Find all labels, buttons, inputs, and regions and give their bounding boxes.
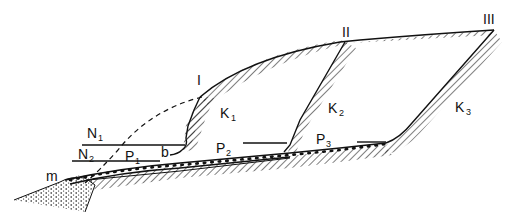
label-III: III bbox=[483, 11, 495, 27]
label-k2: K bbox=[328, 100, 338, 116]
label-p3-sub: 3 bbox=[326, 139, 331, 149]
slope-k3-line bbox=[386, 30, 494, 143]
label-m: m bbox=[46, 168, 58, 184]
slope-k3-hatch bbox=[385, 30, 502, 155]
label-p1: P bbox=[125, 148, 134, 164]
label-n1: N bbox=[87, 125, 97, 141]
label-p3: P bbox=[316, 131, 325, 147]
label-k1-sub: 1 bbox=[231, 113, 236, 123]
label-b: b bbox=[161, 144, 169, 160]
label-p2-sub: 2 bbox=[226, 148, 231, 158]
label-k1: K bbox=[220, 105, 230, 121]
label-n2: N bbox=[78, 146, 88, 162]
label-n1-sub: 1 bbox=[98, 133, 103, 143]
slope-k1-hatch-wide bbox=[186, 96, 214, 152]
cross-section-diagram: I II III K 1 K 2 K 3 N 1 N 2 P 1 P 2 P 3… bbox=[0, 0, 507, 219]
label-k3-sub: 3 bbox=[466, 107, 471, 117]
label-p2: P bbox=[216, 140, 225, 156]
diagram-canvas: I II III K 1 K 2 K 3 N 1 N 2 P 1 P 2 P 3… bbox=[0, 0, 507, 219]
label-n2-sub: 2 bbox=[89, 154, 94, 164]
label-p1-sub: 1 bbox=[135, 156, 140, 166]
label-I: I bbox=[197, 72, 201, 88]
label-k2-sub: 2 bbox=[339, 108, 344, 118]
label-II: II bbox=[342, 24, 350, 40]
label-k3: K bbox=[455, 99, 465, 115]
